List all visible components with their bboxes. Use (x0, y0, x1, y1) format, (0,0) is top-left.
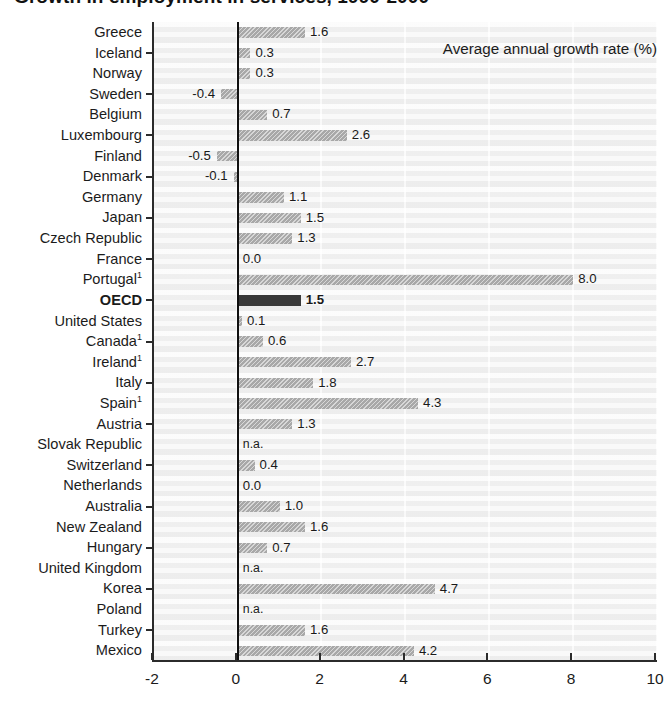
footnote-marker: 1 (137, 394, 142, 404)
bar-value-label: 8.0 (578, 271, 596, 287)
bar-value-label: 0.3 (255, 45, 273, 61)
category-label: United States (0, 311, 146, 332)
category-label: Hungary (0, 537, 146, 558)
bar-value-label: 1.0 (285, 498, 303, 514)
category-label: Iceland (0, 43, 146, 64)
bar-row: 1.6 (154, 517, 657, 538)
category-label: Poland (0, 599, 146, 620)
bar-value-label: 1.3 (297, 416, 315, 432)
category-label: Czech Republic (0, 228, 146, 249)
bar-row: 4.3 (154, 393, 657, 414)
bar-value-label: 0.7 (272, 106, 290, 122)
bar (238, 460, 255, 470)
category-label: Finland (0, 146, 146, 167)
bar-value-label: 1.3 (297, 230, 315, 246)
footnote-marker: 1 (137, 353, 142, 363)
category-label: Norway (0, 63, 146, 84)
bar-row: 4.7 (154, 579, 657, 600)
bar-row: 4.2 (154, 641, 657, 662)
bar-value-label: 1.5 (306, 292, 324, 308)
bar-value-label: 1.6 (310, 622, 328, 638)
bar-value-label: 1.5 (306, 210, 324, 226)
bar (238, 295, 301, 305)
bar-row: n.a. (154, 434, 657, 455)
x-axis-tick (319, 653, 321, 660)
bar-row: 2.7 (154, 352, 657, 373)
bar-value-label: 0.6 (268, 333, 286, 349)
bar-value-label: -0.4 (192, 86, 215, 102)
bar-row: 0.0 (154, 476, 657, 497)
bar (238, 501, 280, 511)
bar-row: 1.3 (154, 228, 657, 249)
zero-axis-line (237, 22, 240, 662)
bar-row: 0.4 (154, 455, 657, 476)
category-label: Australia (0, 496, 146, 517)
bar (238, 398, 418, 408)
bar-row: -0.4 (154, 84, 657, 105)
bar-value-label: 0.0 (243, 251, 261, 267)
bar-value-label: 2.6 (352, 127, 370, 143)
category-label: Luxembourg (0, 125, 146, 146)
bar-value-label: 1.6 (310, 24, 328, 40)
footnote-marker: 1 (137, 332, 142, 342)
bar (238, 357, 351, 367)
category-label: Denmark (0, 166, 146, 187)
category-label: Slovak Republic (0, 434, 146, 455)
bar (238, 336, 263, 346)
bar-rows-layer: 1.60.30.3-0.40.72.6-0.5-0.11.11.51.30.08… (154, 22, 657, 660)
x-axis-tick-label: 2 (315, 670, 324, 688)
bar-row: -0.1 (154, 166, 657, 187)
bar (238, 48, 251, 58)
bar-row: 0.6 (154, 331, 657, 352)
bar (238, 378, 313, 388)
bar-value-label: 4.2 (419, 643, 437, 659)
bar (238, 419, 292, 429)
x-axis-tick-label: 10 (646, 670, 663, 688)
category-label: Turkey (0, 620, 146, 641)
x-axis-title: Average annual growth rate (%) (443, 40, 657, 57)
x-axis-tick (570, 653, 572, 660)
x-axis-tick-label: 4 (399, 670, 408, 688)
bar-value-label: -0.1 (205, 168, 228, 184)
footnote-marker: 1 (137, 270, 142, 280)
category-label: Korea (0, 578, 146, 599)
category-label: Portugal1 (0, 269, 146, 290)
x-axis-tick-label: 6 (483, 670, 492, 688)
bar-row: 1.8 (154, 373, 657, 394)
category-label-column: GreeceIcelandNorwaySwedenBelgiumLuxembou… (0, 22, 146, 661)
bar (238, 110, 267, 120)
bar-row: 2.6 (154, 125, 657, 146)
x-axis-tick-label: -2 (145, 670, 159, 688)
bar-row: 1.3 (154, 414, 657, 435)
category-label: Spain1 (0, 393, 146, 414)
bar-value-label: 0.3 (255, 65, 273, 81)
bar-value-label: 0.0 (243, 478, 261, 494)
bar (217, 151, 238, 161)
category-label: United Kingdom (0, 558, 146, 579)
x-axis-tick-label: 0 (232, 670, 241, 688)
bar-value-label: 1.8 (318, 375, 336, 391)
bar-value-label: 0.1 (247, 313, 265, 329)
category-label: Netherlands (0, 475, 146, 496)
category-label: Austria (0, 414, 146, 435)
bar-value-label: -0.5 (188, 148, 211, 164)
bar-row: n.a. (154, 599, 657, 620)
bar (238, 522, 305, 532)
bar-row: 1.0 (154, 496, 657, 517)
bar-value-label: 2.7 (356, 354, 374, 370)
bar-row: 1.1 (154, 187, 657, 208)
category-label: Canada1 (0, 331, 146, 352)
plot-area: 1.60.30.3-0.40.72.6-0.5-0.11.11.51.30.08… (152, 22, 657, 662)
na-label: n.a. (243, 560, 264, 576)
x-axis-tick (235, 653, 237, 660)
category-label: Japan (0, 207, 146, 228)
category-label: France (0, 249, 146, 270)
bar-row: 8.0 (154, 269, 657, 290)
x-axis-tick-label: 8 (567, 670, 576, 688)
bar-row: 1.6 (154, 620, 657, 641)
bar-row: 1.5 (154, 208, 657, 229)
bar (238, 584, 435, 594)
bar-row: -0.5 (154, 146, 657, 167)
bar (221, 89, 238, 99)
